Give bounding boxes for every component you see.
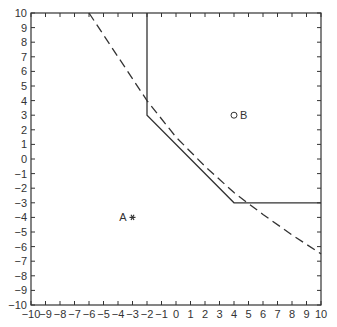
x-tick-label: 0: [173, 308, 179, 320]
y-tick-label: −9: [14, 284, 27, 296]
x-tick-label: 2: [202, 308, 208, 320]
x-tick-label: −4: [112, 308, 125, 320]
y-tick-label: 7: [21, 51, 27, 63]
y-tick-label: 5: [21, 80, 27, 92]
y-tick-label: −8: [14, 270, 27, 282]
x-tick-label: 10: [315, 308, 327, 320]
y-axis: −10−9−8−7−6−5−4−3−2−1012345678910: [8, 7, 321, 311]
point-a-marker: [130, 215, 136, 220]
y-tick-label: 8: [21, 36, 27, 48]
x-tick-label: −6: [83, 308, 96, 320]
annotations: AB: [119, 109, 247, 223]
y-tick-label: 1: [21, 138, 27, 150]
x-tick-label: −1: [155, 308, 168, 320]
solid-line: [147, 13, 321, 203]
plot-border: [31, 13, 321, 305]
x-tick-label: 8: [289, 308, 295, 320]
y-tick-label: −1: [14, 168, 27, 180]
x-axis: −10−9−8−7−6−5−4−3−2−1012345678910: [22, 13, 327, 320]
x-tick-label: 9: [303, 308, 309, 320]
x-tick-label: 7: [274, 308, 280, 320]
x-tick-label: −8: [54, 308, 67, 320]
y-tick-label: 9: [21, 22, 27, 34]
y-tick-label: 3: [21, 109, 27, 121]
point-label-a: A: [119, 211, 127, 223]
x-tick-label: 3: [216, 308, 222, 320]
y-tick-label: 2: [21, 124, 27, 136]
y-tick-label: 4: [21, 95, 27, 107]
chart: −10−9−8−7−6−5−4−3−2−1012345678910 −10−9−…: [0, 0, 337, 327]
x-tick-label: −2: [141, 308, 154, 320]
y-tick-label: −4: [14, 211, 27, 223]
plot-frame: [31, 13, 321, 305]
y-tick-label: −7: [14, 255, 27, 267]
x-tick-label: −5: [97, 308, 110, 320]
y-tick-label: −5: [14, 226, 27, 238]
x-tick-label: 5: [245, 308, 251, 320]
x-tick-label: 4: [231, 308, 237, 320]
point-b-marker: [231, 112, 237, 118]
y-tick-label: 6: [21, 65, 27, 77]
y-tick-label: 10: [15, 7, 27, 19]
y-tick-label: −10: [8, 299, 27, 311]
x-tick-label: −9: [39, 308, 52, 320]
x-tick-label: 6: [260, 308, 266, 320]
y-tick-label: −6: [14, 241, 27, 253]
x-tick-label: −3: [126, 308, 139, 320]
x-tick-label: 1: [187, 308, 193, 320]
point-label-b: B: [240, 109, 247, 121]
x-tick-label: −7: [68, 308, 81, 320]
y-tick-label: −3: [14, 197, 27, 209]
y-tick-label: −2: [14, 182, 27, 194]
y-tick-label: 0: [21, 153, 27, 165]
